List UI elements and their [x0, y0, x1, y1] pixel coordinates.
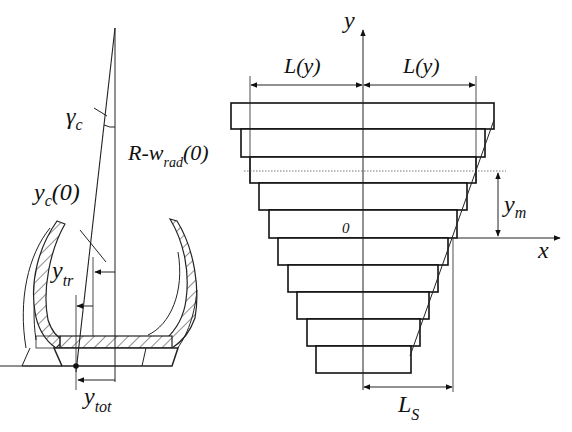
yc0-label: yc(0)	[32, 179, 80, 209]
ytot-label: ytot	[82, 383, 112, 415]
tread-trapezoid	[54, 348, 178, 366]
inclined-camber-line	[76, 28, 115, 372]
right-carcass-hatched	[165, 219, 197, 348]
right-inner-arc	[148, 252, 180, 335]
tire-cross-section: γc yc(0) R-wrad(0) ytr ytot	[0, 28, 209, 415]
ytr-label: ytr	[50, 257, 74, 289]
left-carcass-hatched	[34, 221, 65, 348]
tire-contact-diagram: γc yc(0) R-wrad(0) ytr ytot	[0, 0, 572, 432]
stepped-layer-model: y x 0 L(y) L(y) ym LS	[231, 7, 560, 423]
gamma-arc	[104, 125, 115, 127]
Ls-label: LS	[397, 391, 419, 423]
y-axis-label: y	[342, 7, 355, 33]
gamma-label: γc	[66, 103, 83, 133]
contact-point	[73, 363, 79, 369]
tread-band-hatched	[60, 336, 172, 348]
L-right-label: L(y)	[402, 53, 440, 78]
L-left-label: L(y)	[283, 53, 321, 78]
origin-label: 0	[342, 220, 350, 236]
ym-label: ym	[502, 191, 526, 221]
r-wrad-label: R-wrad(0)	[127, 140, 209, 170]
x-axis-label: x	[537, 237, 549, 263]
